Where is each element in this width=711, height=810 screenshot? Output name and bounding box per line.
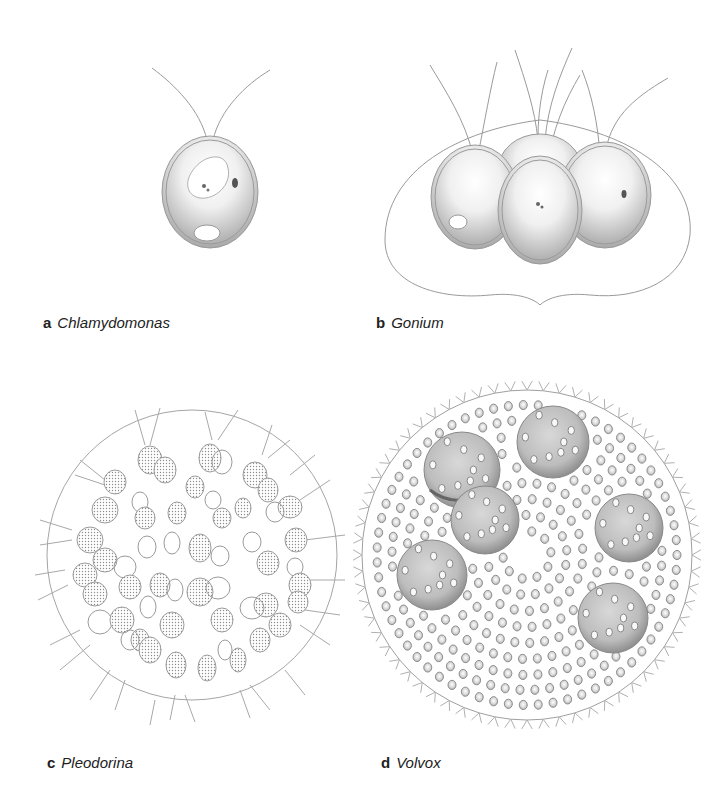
species-name: Pleodorina: [61, 754, 133, 771]
panel-letter: a: [43, 314, 51, 331]
volvox-illustration: [353, 381, 701, 729]
species-name: Chlamydomonas: [57, 314, 170, 331]
panel-label-a: aChlamydomonas: [43, 314, 170, 331]
panel-label-b: bGonium: [376, 314, 444, 331]
chlamydomonas-illustration: [152, 68, 270, 248]
panel-letter: d: [381, 754, 390, 771]
pleodorina-illustration: [35, 408, 345, 725]
species-name: Gonium: [391, 314, 444, 331]
species-name: Volvox: [396, 754, 440, 771]
panel-letter: c: [47, 754, 55, 771]
gonium-illustration: [385, 48, 690, 305]
illustration-canvas: [0, 0, 711, 810]
panel-label-c: cPleodorina: [47, 754, 133, 771]
panel-letter: b: [376, 314, 385, 331]
panel-label-d: dVolvox: [381, 754, 441, 771]
pleodorina-cells: [73, 444, 311, 681]
